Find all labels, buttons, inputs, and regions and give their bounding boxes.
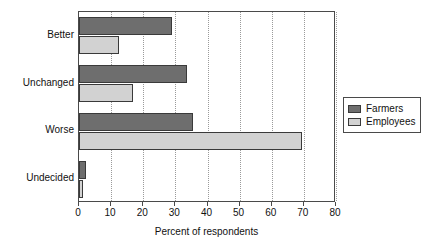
x-tick-mark	[78, 202, 79, 206]
bar-chart: BetterUnchangedWorseUndecided 0102030405…	[0, 0, 435, 252]
x-tick-label: 70	[297, 207, 308, 218]
x-tick-label: 30	[169, 207, 180, 218]
x-tick-label: 20	[137, 207, 148, 218]
x-tick-mark	[271, 202, 272, 206]
legend-item-farmers[interactable]: Farmers	[348, 102, 415, 115]
bar-group	[79, 155, 334, 203]
bar-employees-worse	[79, 132, 302, 150]
y-axis-label-worse: Worse	[0, 124, 74, 135]
legend-label: Farmers	[366, 103, 403, 114]
bar-farmers-better	[79, 17, 172, 35]
y-axis-label-unchanged: Unchanged	[0, 77, 74, 88]
bar-group	[79, 12, 334, 60]
x-tick-mark	[110, 202, 111, 206]
bar-farmers-undecided	[79, 161, 86, 179]
x-axis-title: Percent of respondents	[78, 226, 335, 237]
gridline	[336, 12, 337, 201]
bar-farmers-unchanged	[79, 65, 187, 83]
bar-group	[79, 108, 334, 156]
bar-employees-unchanged	[79, 84, 133, 102]
plot-area	[78, 11, 335, 202]
x-axis-ticks: 01020304050607080	[78, 202, 335, 222]
y-axis-label-better: Better	[0, 29, 74, 40]
x-tick-label: 0	[75, 207, 81, 218]
chart-legend: FarmersEmployees	[343, 97, 421, 133]
bar-group	[79, 60, 334, 108]
bar-farmers-worse	[79, 113, 193, 131]
legend-label: Employees	[366, 116, 415, 127]
x-tick-mark	[303, 202, 304, 206]
x-tick-mark	[174, 202, 175, 206]
x-tick-mark	[142, 202, 143, 206]
x-tick-mark	[239, 202, 240, 206]
bar-employees-undecided	[79, 180, 83, 198]
x-tick-label: 10	[105, 207, 116, 218]
x-tick-mark	[207, 202, 208, 206]
x-tick-label: 50	[233, 207, 244, 218]
x-tick-mark	[335, 202, 336, 206]
legend-swatch-icon	[348, 118, 361, 126]
legend-item-employees[interactable]: Employees	[348, 115, 415, 128]
y-axis-category-labels: BetterUnchangedWorseUndecided	[0, 11, 74, 202]
y-axis-label-undecided: Undecided	[0, 172, 74, 183]
legend-swatch-icon	[348, 105, 361, 113]
bar-employees-better	[79, 36, 119, 54]
x-tick-label: 80	[329, 207, 340, 218]
x-tick-label: 40	[201, 207, 212, 218]
x-tick-label: 60	[265, 207, 276, 218]
